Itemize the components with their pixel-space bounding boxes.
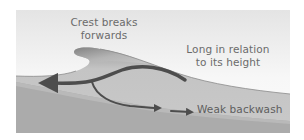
crest-label: Crest breaks forwards	[66, 16, 142, 42]
backwash-label: Weak backwash	[197, 103, 281, 116]
length-label: Long in relation to its height	[178, 43, 278, 69]
crest-label-line-2: forwards	[66, 29, 142, 42]
length-label-line-1: Long in relation	[178, 43, 278, 56]
length-label-line-2: to its height	[178, 56, 278, 69]
constructive-wave-diagram: Crest breaks forwards Long in relation t…	[0, 0, 304, 140]
weak-backwash-arrow	[171, 111, 190, 112]
crest-label-line-1: Crest breaks	[66, 16, 142, 29]
wave-illustration	[0, 0, 304, 140]
